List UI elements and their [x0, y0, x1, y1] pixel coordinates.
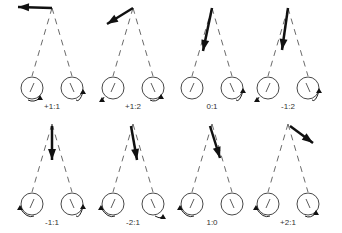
panel-ratio-label: +1:2 — [125, 102, 141, 111]
rotation-arrowhead-icon — [17, 205, 23, 210]
left-eye-axis — [266, 83, 270, 92]
left-eye-axis — [111, 199, 115, 208]
right-eye-axis — [306, 199, 310, 208]
sightline-right — [288, 124, 308, 192]
sightline-left — [113, 124, 133, 192]
rotation-arrowhead-icon — [158, 94, 164, 99]
sightline-right — [212, 8, 232, 76]
sightline-right — [52, 8, 72, 76]
right-eye-axis — [151, 199, 155, 208]
rotation-arrowhead-icon — [160, 214, 166, 219]
gaze-arrowhead-icon — [18, 3, 29, 11]
gaze-arrowhead-icon — [280, 39, 288, 50]
right-eye-axis — [230, 83, 234, 92]
rotation-arrowhead-icon — [177, 205, 183, 210]
right-eye-axis — [306, 83, 310, 92]
sightline-left — [268, 124, 288, 192]
gaze-arrowhead-icon — [213, 146, 221, 158]
sightline-right — [288, 8, 308, 76]
vergence-diagram — [0, 0, 342, 233]
panel-ratio-label: +1:1 — [44, 102, 60, 111]
sightline-right — [52, 124, 72, 192]
rotation-arrowhead-icon — [253, 205, 259, 210]
right-eye-axis — [70, 199, 74, 208]
panel-ratio-label: -2:1 — [126, 218, 140, 227]
left-eye-axis — [111, 83, 115, 92]
right-eye-axis — [70, 83, 74, 92]
sightline-left — [32, 124, 52, 192]
panel-ratio-label: 0:1 — [206, 102, 217, 111]
rotation-arrowhead-icon — [98, 205, 104, 210]
gaze-arrowhead-icon — [107, 15, 118, 24]
rotation-arrowhead-icon — [80, 204, 86, 209]
sightline-left — [192, 124, 212, 192]
rotation-arrowhead-icon — [313, 210, 319, 215]
left-eye-axis — [30, 199, 34, 208]
rotation-arrowhead-icon — [240, 88, 246, 93]
panel-ratio-label: -1:2 — [281, 102, 295, 111]
rotation-arrowhead-icon — [316, 88, 322, 93]
right-eye-axis — [151, 83, 155, 92]
left-eye-axis — [190, 199, 194, 208]
panel-ratio-label: -1:1 — [45, 218, 59, 227]
panel-ratio-label: 1:0 — [206, 218, 217, 227]
left-eye-axis — [266, 199, 270, 208]
panel-ratio-label: +2:1 — [280, 218, 296, 227]
left-eye-axis — [30, 83, 34, 92]
diagram-root: +1:1+1:20:1-1:2-1:1-2:11:0+2:1 — [0, 0, 342, 233]
sightline-left — [32, 8, 52, 76]
sightline-right — [133, 8, 153, 76]
left-eye-axis — [190, 83, 194, 92]
rotation-arrowhead-icon — [80, 89, 86, 94]
right-eye-axis — [230, 199, 234, 208]
gaze-arrowhead-icon — [48, 149, 56, 160]
sightline-right — [212, 124, 232, 192]
